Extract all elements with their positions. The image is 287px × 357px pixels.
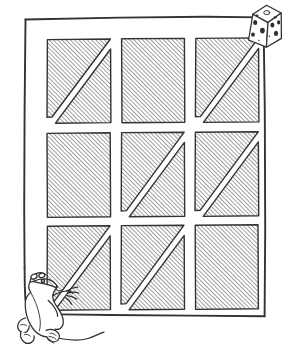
illustration-canvas: Mouse and Cheese Grid Puzzle Hand-drawn … bbox=[0, 0, 287, 357]
cell-r3c1 bbox=[47, 226, 111, 310]
cell-r3c3 bbox=[195, 225, 258, 310]
cell-r2c2 bbox=[121, 132, 185, 217]
mouse-cheese-grid-drawing bbox=[0, 0, 287, 357]
cell-r2c3 bbox=[195, 132, 259, 217]
cell-r3c2 bbox=[121, 225, 185, 310]
cell-r1c2 bbox=[122, 38, 185, 122]
cell-r1c3 bbox=[195, 38, 259, 123]
cell-r1c1 bbox=[47, 39, 111, 123]
cell-r2c1 bbox=[47, 133, 111, 218]
